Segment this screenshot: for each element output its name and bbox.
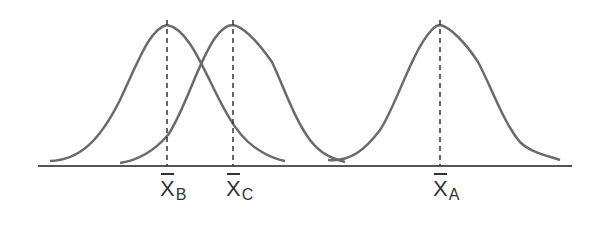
mean-label-a: X A (433, 176, 459, 204)
curve-a (328, 25, 560, 160)
x-bar: X (433, 176, 448, 202)
distribution-diagram (0, 0, 593, 230)
subscript: A (449, 186, 460, 204)
mean-label-c: X C (226, 176, 253, 204)
x-bar: X (226, 176, 241, 202)
subscript: B (176, 186, 187, 204)
mean-label-b: X B (160, 176, 186, 204)
x-bar: X (160, 176, 175, 202)
subscript: C (242, 186, 254, 204)
